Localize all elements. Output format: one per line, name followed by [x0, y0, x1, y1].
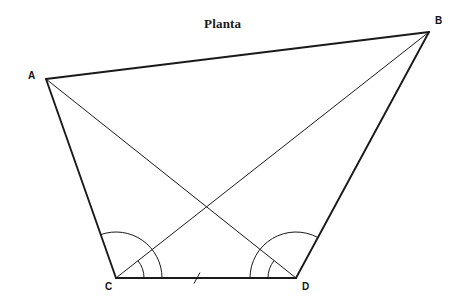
vertex-label-c: C — [105, 281, 112, 292]
edges-group — [46, 32, 429, 278]
arc-ACD-outer — [101, 232, 162, 278]
edge-BC — [116, 32, 429, 278]
vertex-label-a: A — [28, 70, 35, 81]
geometry-drawing — [0, 0, 465, 306]
vertex-label-d: D — [302, 281, 309, 292]
figure-title: Planta — [204, 16, 241, 32]
figure-canvas: Planta ABCD — [0, 0, 465, 306]
arc-BCD-inner — [138, 261, 144, 278]
angle-arcs-group — [101, 232, 318, 278]
vertex-label-b: B — [435, 15, 442, 26]
edge-CA — [46, 79, 116, 278]
edge-AD — [46, 79, 296, 278]
edge-BD — [296, 32, 429, 278]
edge-AB — [46, 32, 429, 79]
arc-ADC-inner — [268, 261, 274, 278]
